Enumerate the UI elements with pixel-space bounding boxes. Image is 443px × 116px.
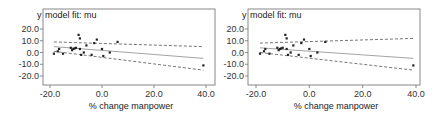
chart-title: model fit: mu <box>45 10 97 20</box>
y-tick-label: 20.0 <box>21 24 39 34</box>
data-point <box>284 34 286 36</box>
y-tick-label: -10.0 <box>223 59 244 69</box>
data-point <box>85 44 87 46</box>
y-tick-label: 0.0 <box>231 48 244 58</box>
data-point <box>75 47 77 49</box>
data-point <box>308 48 310 50</box>
data-point <box>109 51 111 53</box>
data-point <box>282 47 284 49</box>
data-point <box>101 48 103 50</box>
chart-title: model fit: mu <box>250 10 302 20</box>
y-tick-label: 0.0 <box>26 48 39 58</box>
x-tick-label: -20.0 <box>40 89 61 99</box>
y-tick-label: 10.0 <box>21 36 39 46</box>
x-tick-label: 40.0 <box>197 89 215 99</box>
data-point <box>324 41 326 43</box>
x-tick-label: -20.0 <box>246 89 267 99</box>
data-point <box>93 42 95 44</box>
y-tick-label: 10.0 <box>226 36 244 46</box>
data-point <box>287 54 289 56</box>
data-point <box>96 38 98 40</box>
x-tick-label: 0.0 <box>303 89 316 99</box>
upper-confidence-band <box>260 38 413 43</box>
x-tick-label: 20.0 <box>145 89 163 99</box>
upper-confidence-band <box>54 42 204 47</box>
data-point <box>316 51 318 53</box>
y-axis-label: y <box>37 10 42 20</box>
data-point <box>79 37 81 39</box>
y-axis-label: y <box>242 10 247 20</box>
x-axis-label: % change manpower <box>89 101 174 111</box>
data-point <box>303 38 305 40</box>
data-point <box>300 42 302 44</box>
x-axis-label: % change manpower <box>294 101 379 111</box>
plot-frame <box>43 9 215 85</box>
data-point <box>286 48 288 50</box>
data-point <box>117 41 119 43</box>
x-tick-label: 40.0 <box>407 89 425 99</box>
data-point <box>91 54 93 56</box>
data-point <box>78 34 80 36</box>
data-point <box>202 64 204 66</box>
data-point <box>57 50 59 52</box>
data-point <box>70 47 72 49</box>
data-point <box>412 64 414 66</box>
data-point <box>286 37 288 39</box>
fit-line <box>260 48 413 59</box>
data-point <box>62 53 64 55</box>
data-point <box>292 44 294 46</box>
data-point <box>290 51 292 53</box>
data-point <box>264 48 266 50</box>
data-point <box>102 55 104 57</box>
chart-canvas: ymodel fit: mu20.010.00.0-10.0-20.0-20.0… <box>0 0 443 116</box>
x-tick-label: 0.0 <box>96 89 109 99</box>
data-point <box>83 51 85 53</box>
y-tick-label: 20.0 <box>226 24 244 34</box>
data-point <box>276 47 278 49</box>
data-point <box>263 50 265 52</box>
data-point <box>298 54 300 56</box>
data-point <box>58 48 60 50</box>
data-point <box>80 54 82 56</box>
y-tick-label: -20.0 <box>18 71 39 81</box>
data-point <box>310 55 312 57</box>
y-tick-label: -20.0 <box>223 71 244 81</box>
x-tick-label: 20.0 <box>354 89 372 99</box>
data-point <box>259 53 261 55</box>
lower-confidence-band <box>260 53 413 71</box>
data-point <box>79 48 81 50</box>
chart-panel-2: ymodel fit: mu20.010.00.0-10.0-20.0-20.0… <box>223 9 424 111</box>
y-tick-label: -10.0 <box>18 59 39 69</box>
chart-panel-1: ymodel fit: mu20.010.00.0-10.0-20.0-20.0… <box>18 9 215 111</box>
data-point <box>268 53 270 55</box>
data-point <box>53 53 55 55</box>
plot-frame <box>248 9 420 85</box>
lower-confidence-band <box>54 51 204 70</box>
